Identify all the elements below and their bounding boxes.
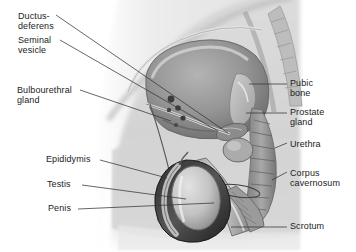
label-pubic-bone: Pubic bone bbox=[290, 78, 313, 98]
label-prostate-gland: Prostate gland bbox=[290, 107, 324, 127]
label-testis: Testis bbox=[47, 179, 71, 189]
anatomy-figure: Ductus- deferens Seminal vesicle Bulbour… bbox=[0, 0, 356, 252]
label-scrotum: Scrotum bbox=[290, 221, 324, 231]
label-ductus-deferens: Ductus- deferens bbox=[18, 11, 54, 31]
label-penis: Penis bbox=[48, 203, 71, 213]
label-epididymis: Epididymis bbox=[46, 154, 91, 164]
label-urethra: Urethra bbox=[290, 139, 321, 149]
label-seminal-vesicle: Seminal vesicle bbox=[18, 35, 51, 55]
prostate-gland bbox=[223, 138, 253, 162]
label-bulbourethral-gland: Bulbourethral gland bbox=[17, 85, 72, 105]
label-corpus-cavernosum: Corpus cavernosum bbox=[290, 168, 340, 188]
